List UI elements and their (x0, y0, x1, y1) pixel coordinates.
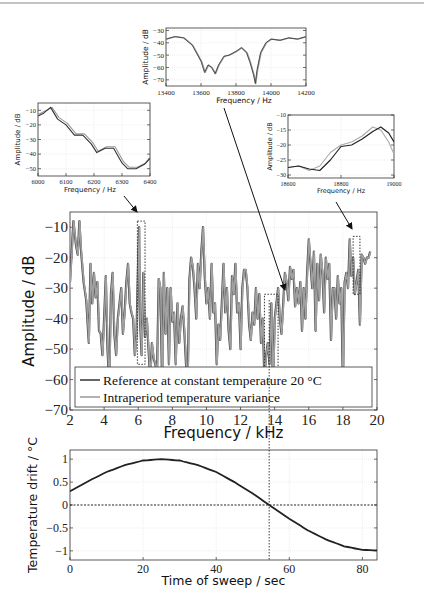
zoom-arrow (336, 202, 352, 229)
x-tick-label: 6100 (60, 178, 73, 185)
legend: Reference at constant temperature 20 °CI… (75, 367, 372, 407)
x-tick-label: 18 (335, 412, 350, 428)
y-tick-label: −20 (26, 121, 36, 128)
y-tick-label: −70 (45, 402, 68, 418)
y-tick-label: −15 (277, 127, 286, 133)
data-series (167, 37, 307, 84)
x-tick-label: 18600 (281, 181, 296, 187)
temperature-chart: 02040608010.50−0.5−1Time of sweep / secT… (25, 300, 377, 588)
figure-canvas: 1340013600138001400014200−30−40−50−60−70… (0, 0, 424, 602)
x-tick-label: 80 (356, 562, 368, 576)
figure: 1340013600138001400014200−30−40−50−60−70… (0, 0, 424, 602)
x-tick-label: 20 (137, 562, 149, 576)
inset-chart-right: 186001880019000−10−15−20−25−30Frequency … (266, 112, 402, 195)
inset-chart-top: 1340013600138001400014200−30−40−50−60−70… (141, 27, 315, 105)
y-tick-label: −10 (277, 112, 286, 118)
y-axis-label: Amplitude / dB (14, 113, 22, 165)
x-tick-label: 6300 (116, 178, 129, 185)
x-tick-label: 19000 (387, 181, 402, 187)
x-tick-label: 6200 (88, 178, 101, 185)
x-tick-label: 20 (370, 412, 385, 428)
x-axis-label: Frequency / kHz (164, 424, 284, 442)
x-tick-label: 14200 (297, 89, 315, 97)
main-chart: 2468101214161820−10−20−30−40−50−60−70Fre… (20, 212, 385, 442)
x-tick-label: 13600 (192, 89, 210, 97)
y-tick-label: 0.5 (53, 475, 68, 489)
y-tick-label: −30 (277, 172, 286, 178)
y-tick-label: −50 (26, 165, 36, 172)
y-tick-label: −20 (277, 142, 286, 148)
y-tick-label: −40 (153, 39, 164, 47)
y-tick-label: 0 (62, 498, 68, 512)
zoom-arrow (224, 108, 285, 290)
y-tick-label: −40 (26, 150, 36, 157)
y-tick-label: −10 (26, 107, 36, 114)
zoom-arrow (124, 196, 137, 212)
zoom-arrows (124, 108, 352, 290)
x-tick-label: 4 (100, 412, 108, 428)
x-tick-label: 16 (301, 412, 317, 428)
y-tick-label: −30 (153, 27, 164, 35)
legend-label-variance: Intraperiod temperature variance (103, 390, 280, 405)
x-axis-label: Frequency / Hz (216, 96, 272, 105)
x-tick-label: 6400 (144, 178, 157, 185)
y-tick-label: −1 (55, 544, 68, 558)
y-axis-label: Amplitude / dB (266, 122, 274, 170)
y-tick-label: −70 (153, 76, 164, 84)
y-tick-label: −0.5 (46, 521, 68, 535)
y-axis-label: Amplitude / dB (20, 255, 38, 366)
x-axis-label: Time of sweep / sec (161, 573, 286, 588)
y-tick-label: −30 (45, 280, 68, 296)
y-tick-label: −30 (26, 136, 36, 143)
y-tick-label: −20 (45, 250, 68, 266)
x-axis-label: Frequency / Hz (64, 186, 116, 194)
y-tick-label: −25 (277, 157, 286, 163)
x-tick-label: 6 (134, 412, 142, 428)
data-series (70, 221, 370, 389)
y-tick-label: −60 (45, 372, 68, 388)
inset-chart-left: 60006100620063006400−10−20−30−40−50Frequ… (14, 103, 157, 194)
y-tick-label: 1 (62, 452, 68, 466)
y-tick-label: −50 (45, 341, 68, 357)
x-tick-label: 0 (67, 562, 73, 576)
legend-label-reference: Reference at constant temperature 20 °C (103, 373, 322, 388)
x-tick-label: 13400 (157, 89, 175, 97)
x-tick-label: 6000 (32, 178, 45, 185)
y-tick-label: −10 (45, 219, 68, 235)
y-tick-label: −40 (45, 311, 68, 327)
y-tick-label: −60 (153, 64, 164, 72)
x-axis-label: Frequency / Hz (317, 187, 366, 195)
y-axis-label: Amplitude / dB (141, 29, 150, 85)
y-axis-label: Temperature drift / °C (25, 437, 40, 574)
y-tick-label: −50 (153, 52, 164, 60)
